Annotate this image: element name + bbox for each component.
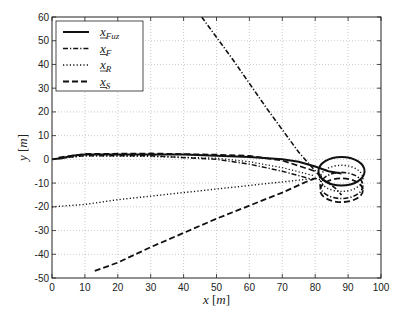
svg-text:70: 70 bbox=[277, 282, 289, 293]
svg-text:-30: -30 bbox=[35, 225, 50, 236]
svg-text:-50: -50 bbox=[35, 273, 50, 284]
svg-text:0: 0 bbox=[43, 154, 49, 165]
svg-text:30: 30 bbox=[38, 83, 50, 94]
x-axis-label: x [m] bbox=[202, 292, 230, 307]
svg-text:-20: -20 bbox=[35, 201, 50, 212]
svg-text:20: 20 bbox=[112, 282, 124, 293]
svg-text:60: 60 bbox=[38, 12, 50, 23]
svg-text:30: 30 bbox=[145, 282, 157, 293]
svg-text:90: 90 bbox=[343, 282, 355, 293]
svg-text:50: 50 bbox=[38, 35, 50, 46]
svg-text:40: 40 bbox=[38, 59, 50, 70]
svg-text:100: 100 bbox=[373, 282, 390, 293]
svg-text:0: 0 bbox=[49, 282, 55, 293]
svg-text:40: 40 bbox=[178, 282, 190, 293]
svg-text:80: 80 bbox=[310, 282, 322, 293]
svg-text:20: 20 bbox=[38, 106, 50, 117]
svg-text:-10: -10 bbox=[35, 178, 50, 189]
svg-text:10: 10 bbox=[79, 282, 91, 293]
series-x-fuz bbox=[52, 155, 342, 174]
loop-ring-dotted bbox=[320, 165, 363, 191]
svg-text:60: 60 bbox=[244, 282, 256, 293]
svg-text:-40: -40 bbox=[35, 249, 50, 260]
y-axis-label: y [m] bbox=[15, 134, 30, 163]
svg-text:10: 10 bbox=[38, 130, 50, 141]
legend: xFuzxFxRxS bbox=[56, 21, 143, 91]
series-x-r bbox=[52, 178, 332, 206]
trajectory-chart: 0102030405060708090100-50-40-30-20-10010… bbox=[0, 0, 400, 324]
